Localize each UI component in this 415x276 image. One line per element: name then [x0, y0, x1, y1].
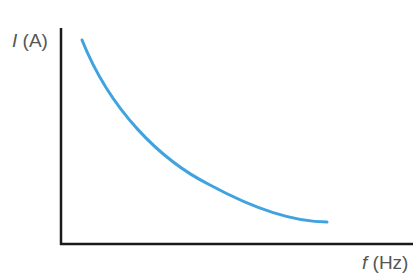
- current-frequency-curve: [82, 40, 327, 222]
- x-axis-variable: f: [362, 252, 367, 273]
- y-axis-unit: (A): [23, 30, 48, 51]
- chart-canvas: [0, 0, 415, 276]
- x-axis-unit: (Hz): [373, 252, 409, 273]
- y-axis-variable: I: [12, 30, 17, 51]
- y-axis-label: I (A): [12, 30, 48, 52]
- x-axis-label: f (Hz): [362, 252, 408, 274]
